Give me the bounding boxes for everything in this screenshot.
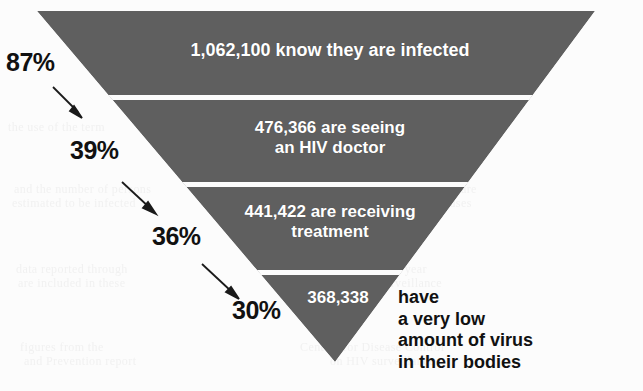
arrow-36-to-30 [202, 264, 239, 299]
funnel-band-label-suppressed: 368,338 [278, 288, 398, 308]
funnel-band-label-in-care: 476,366 are seeing an HIV doctor [205, 118, 455, 158]
funnel-separator-2 [0, 182, 643, 187]
arrow-87-to-39 [53, 87, 82, 118]
funnel-separator-3 [0, 270, 643, 275]
percent-label-suppressed: 30% [232, 296, 281, 325]
funnel-band-label-on-treatment: 441,422 are receiving treatment [215, 202, 445, 242]
funnel-figure: the use of the termpeople living with HI… [0, 0, 643, 391]
percent-label-in-care: 39% [70, 136, 119, 165]
funnel-band-label-aware: 1,062,100 know they are infected [150, 40, 510, 61]
percent-label-aware: 87% [6, 48, 55, 77]
percent-label-on-treatment: 36% [152, 222, 201, 251]
funnel-separator-1 [0, 95, 643, 100]
outcome-caption: have a very low amount of virus in their… [398, 287, 628, 373]
arrow-39-to-36 [122, 182, 156, 214]
